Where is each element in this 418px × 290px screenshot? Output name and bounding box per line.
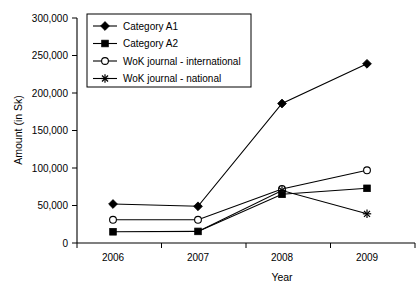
x-tick-label-2006: 2006: [102, 252, 125, 263]
y-tick-label-250000: 250,000: [32, 50, 69, 61]
chart-canvas: 300,000 250,000 200,000 150,000 100,000 …: [0, 0, 418, 290]
data-point-marker: [195, 228, 202, 235]
line-chart: 300,000 250,000 200,000 150,000 100,000 …: [0, 0, 418, 290]
filled-square-icon: [102, 40, 109, 47]
legend-label-wok-national: WoK journal - national: [123, 73, 221, 84]
x-tick-label-2008: 2008: [271, 252, 294, 263]
y-tick-label-150000: 150,000: [32, 125, 69, 136]
data-point-marker: [364, 167, 371, 174]
data-point-marker: [110, 216, 117, 223]
chart-legend: Category A1 Category A2 WoK journal - in…: [87, 14, 251, 87]
data-point-marker: [363, 210, 371, 218]
x-tick-label-2007: 2007: [187, 252, 210, 263]
legend-label-category-a1: Category A1: [123, 21, 178, 32]
y-tick-label-300000: 300,000: [32, 13, 69, 24]
data-point-marker: [364, 185, 371, 192]
y-tick-label-100000: 100,000: [32, 163, 69, 174]
data-point-marker: [110, 229, 117, 236]
y-tick-label-200000: 200,000: [32, 88, 69, 99]
x-axis-title: Year: [271, 271, 293, 283]
y-tick-label-0: 0: [62, 238, 68, 249]
y-axis-title: Amount (in Sk): [12, 95, 24, 164]
star-icon: [101, 74, 109, 82]
x-tick-label-2009: 2009: [356, 252, 379, 263]
open-circle-icon: [102, 58, 109, 65]
legend-label-wok-international: WoK journal - international: [123, 56, 241, 67]
data-point-marker: [195, 216, 202, 223]
legend-item-category-a1[interactable]: Category A1: [93, 21, 178, 32]
legend-label-category-a2: Category A2: [123, 38, 178, 49]
y-tick-label-50000: 50,000: [37, 200, 68, 211]
data-point-marker: [278, 186, 286, 194]
